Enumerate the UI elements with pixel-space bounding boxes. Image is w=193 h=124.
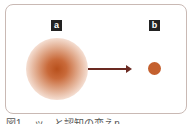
focused-dot — [148, 62, 161, 75]
panel-b-label: b — [149, 20, 160, 31]
arrow-right-icon — [126, 65, 132, 73]
figure-caption: 図1 …ッ…と認知の変えn — [6, 115, 120, 124]
diffuse-blur-circle — [26, 38, 88, 100]
panel-a-label: a — [51, 20, 62, 31]
arrow-shaft — [88, 68, 126, 70]
